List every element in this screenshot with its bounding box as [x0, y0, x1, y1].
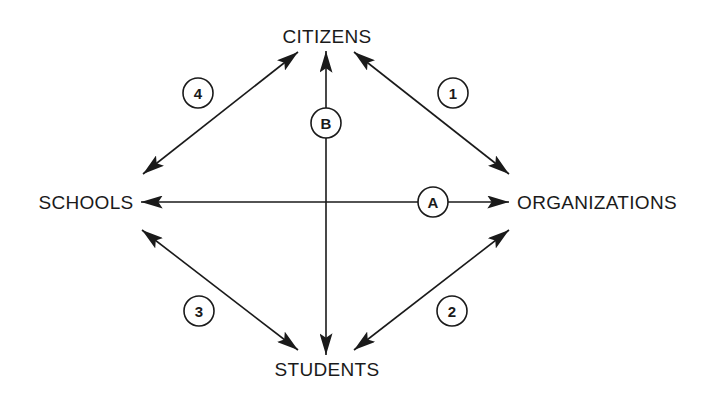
marker-b: B: [311, 108, 341, 138]
edge-1-arrow: [354, 52, 509, 174]
relationship-diagram: CITIZENS SCHOOLS ORGANIZATIONS STUDENTS …: [0, 0, 702, 393]
marker-a: A: [418, 187, 448, 217]
marker-a-label: A: [428, 194, 439, 211]
marker-4: 4: [183, 78, 213, 108]
node-organizations: ORGANIZATIONS: [517, 192, 677, 213]
edge-4-arrow: [143, 52, 298, 174]
edge-3-arrow: [142, 230, 298, 350]
node-schools: SCHOOLS: [38, 192, 133, 213]
marker-3: 3: [184, 296, 214, 326]
marker-2: 2: [437, 296, 467, 326]
marker-2-label: 2: [448, 303, 456, 320]
marker-4-label: 4: [194, 85, 203, 102]
marker-b-label: B: [321, 115, 332, 132]
node-students: STUDENTS: [275, 359, 380, 380]
marker-1-label: 1: [449, 85, 457, 102]
marker-3-label: 3: [195, 303, 203, 320]
edge-2-arrow: [354, 230, 509, 350]
marker-1: 1: [438, 78, 468, 108]
node-citizens: CITIZENS: [283, 26, 372, 47]
